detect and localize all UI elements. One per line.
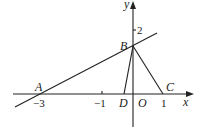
segment-BC <box>133 46 163 94</box>
x-axis-label: x <box>182 95 189 109</box>
y-axis-arrow-icon <box>130 1 136 9</box>
point-label-D: D <box>118 96 128 110</box>
tick-label-y-2: 2 <box>137 24 143 36</box>
segment-BD <box>124 46 133 94</box>
tick-label-x-m1: −1 <box>94 97 106 109</box>
tick-label-x-1: 1 <box>161 97 167 109</box>
tick-label-x-m3: −3 <box>33 97 45 109</box>
line-AB <box>15 33 157 107</box>
point-label-A: A <box>34 80 43 94</box>
y-axis-label: y <box>123 0 130 11</box>
origin-label: O <box>138 96 147 110</box>
point-label-B: B <box>120 39 128 53</box>
point-label-C: C <box>166 80 175 94</box>
coordinate-diagram: y x 2 B A C D O −3 −1 1 <box>0 0 204 136</box>
